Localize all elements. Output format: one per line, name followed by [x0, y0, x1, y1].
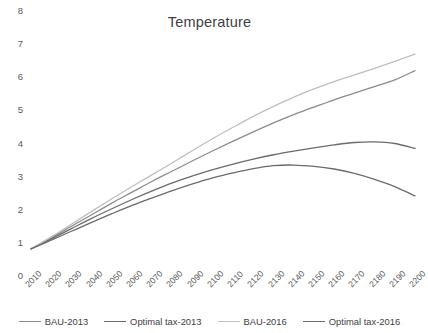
legend-item[interactable]: BAU-2016: [218, 316, 287, 327]
series-lines-group: [31, 54, 415, 249]
legend-item[interactable]: BAU-2013: [19, 316, 88, 327]
y-tick-label: 2: [18, 205, 23, 215]
y-tick-label: 1: [18, 238, 23, 248]
legend-label: BAU-2013: [45, 316, 88, 327]
plot-area: [31, 11, 415, 276]
y-tick-label: 5: [18, 105, 23, 115]
legend-label: Optimal tax-2016: [329, 316, 400, 327]
legend-line-swatch-icon: [104, 321, 126, 322]
legend-item[interactable]: Optimal tax-2016: [303, 316, 400, 327]
y-tick-label: 8: [18, 6, 23, 16]
legend-label: BAU-2016: [244, 316, 287, 327]
plot-svg: [31, 11, 415, 276]
series-line-optimal-tax-2013: [31, 142, 415, 249]
y-axis: 876543210: [0, 0, 31, 290]
series-line-bau-2013: [31, 71, 415, 249]
legend-line-swatch-icon: [218, 321, 240, 322]
legend-label: Optimal tax-2013: [130, 316, 201, 327]
legend-line-swatch-icon: [19, 321, 41, 322]
legend-item[interactable]: Optimal tax-2013: [104, 316, 201, 327]
y-tick-label: 3: [18, 172, 23, 182]
y-tick-label: 6: [18, 72, 23, 82]
chart-legend: BAU-2013Optimal tax-2013BAU-2016Optimal …: [0, 313, 419, 329]
legend-line-swatch-icon: [303, 321, 325, 322]
y-tick-label: 4: [18, 139, 23, 149]
y-tick-label: 7: [18, 39, 23, 49]
series-line-optimal-tax-2016: [31, 165, 415, 249]
x-axis: 2010202020302040205020602070208020902100…: [0, 276, 419, 310]
